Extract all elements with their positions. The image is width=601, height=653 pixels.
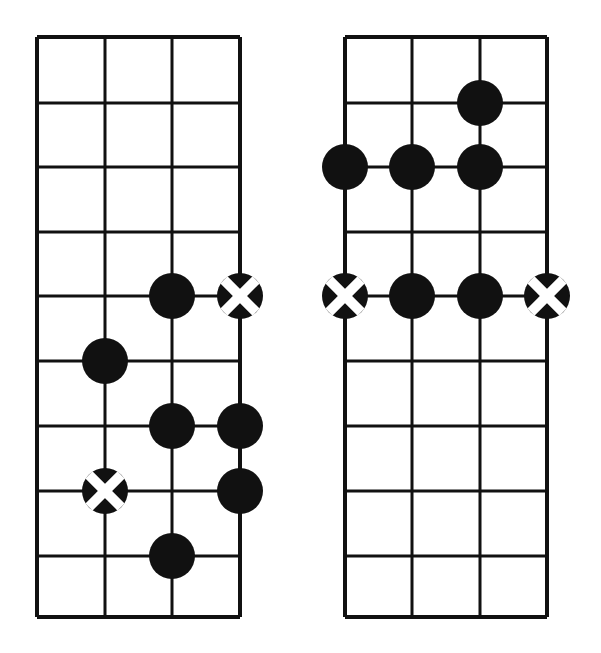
marker-filled-s3-f5[interactable] [457,273,503,319]
marker-filled-s4-f7[interactable] [217,403,263,449]
marker-crossed-s2-f8[interactable] [82,468,128,514]
marker-crossed-s4-f5[interactable] [524,273,570,319]
marker-circle-filled [149,403,195,449]
marker-filled-s3-f7[interactable] [149,403,195,449]
marker-circle-filled [457,144,503,190]
left-chord-diagram [37,37,263,617]
marker-circle-filled [149,273,195,319]
marker-filled-s3-f2[interactable] [457,80,503,126]
right-chord-diagram [322,37,570,617]
marker-filled-s3-f9[interactable] [149,533,195,579]
marker-circle-filled [457,80,503,126]
marker-circle-filled [457,273,503,319]
marker-filled-s3-f5[interactable] [149,273,195,319]
fretboard-svg [0,0,601,653]
marker-circle-filled [149,533,195,579]
marker-circle-filled [389,273,435,319]
marker-filled-s2-f3[interactable] [389,144,435,190]
chord-diagram-pair [0,0,601,653]
marker-crossed-s4-f5[interactable] [217,273,263,319]
marker-filled-s2-f5[interactable] [389,273,435,319]
marker-filled-s3-f3[interactable] [457,144,503,190]
marker-filled-s1-f3[interactable] [322,144,368,190]
diagram-canvas [0,0,601,653]
marker-filled-s4-f8[interactable] [217,468,263,514]
marker-crossed-s1-f5[interactable] [322,273,368,319]
marker-circle-filled [217,468,263,514]
marker-circle-filled [322,144,368,190]
marker-circle-filled [217,403,263,449]
marker-filled-s2-f6[interactable] [82,338,128,384]
marker-circle-filled [389,144,435,190]
marker-circle-filled [82,338,128,384]
